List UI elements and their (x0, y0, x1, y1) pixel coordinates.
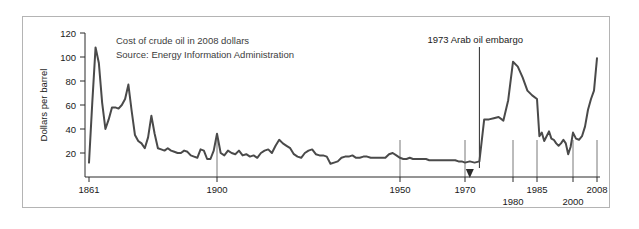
x-tick-label-1980: 1980 (502, 196, 523, 207)
x-axis-ticks (89, 177, 597, 182)
x-tick-label-1861: 1861 (78, 184, 99, 195)
y-tick-label-100: 100 (60, 52, 76, 63)
y-axis-title: Dollars per barrel (38, 69, 49, 142)
y-tick-label-60: 60 (65, 100, 76, 111)
y-tick-label-80: 80 (65, 76, 76, 87)
x-tick-label-1900: 1900 (206, 184, 227, 195)
y-tick-label-40: 40 (65, 124, 76, 135)
y-tick-label-20: 20 (65, 148, 76, 159)
x-tick-label-1985: 1985 (526, 184, 547, 195)
x-tick-label-1950: 1950 (389, 184, 410, 195)
data-series-crude-oil-price (89, 47, 597, 163)
figure-root: 20406080100120 1861190019501970198019852… (0, 0, 639, 229)
y-tick-label-120: 120 (60, 28, 76, 39)
y-axis-tick-labels: 20406080100120 (60, 28, 76, 159)
chart-plot-area: 20406080100120 1861190019501970198019852… (0, 0, 639, 229)
x-tick-label-2008: 2008 (586, 184, 607, 195)
x-tick-label-2000: 2000 (562, 196, 583, 207)
y-axis-ticks (80, 33, 85, 153)
annotation-label-1973-embargo: 1973 Arab oil embargo (427, 34, 523, 45)
chart-note-line-2: Source: Energy Information Administratio… (116, 49, 294, 60)
chart-note-line-1: Cost of crude oil in 2008 dollars (116, 35, 249, 46)
x-tick-label-1970: 1970 (454, 184, 475, 195)
x-axis-tick-labels: 18611900195019701980198520002008 (78, 184, 607, 207)
